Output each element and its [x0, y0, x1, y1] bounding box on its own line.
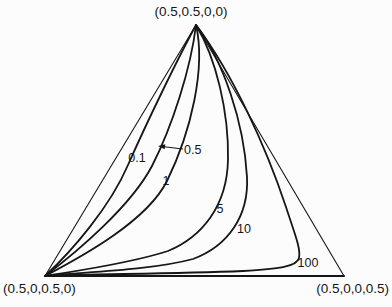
- triangle-left-edge: [45, 25, 196, 276]
- curve-label-10: 10: [237, 222, 251, 236]
- vertex-label-bottom-left: (0.5,0,0.5,0): [3, 281, 76, 296]
- contour-curve-100: [45, 25, 299, 276]
- curve-label-5: 5: [217, 202, 224, 216]
- curve-label-0.5: 0.5: [184, 143, 201, 157]
- curve-label-100: 100: [298, 256, 319, 270]
- curve-label-0.1: 0.1: [128, 151, 145, 165]
- vertex-label-bottom-right: (0.5,0,0,0.5): [316, 281, 389, 296]
- curve-label-1: 1: [163, 174, 170, 188]
- contour-curve-10: [45, 25, 247, 276]
- vertex-label-top: (0.5,0.5,0,0): [155, 4, 228, 19]
- simplex-contour-figure: 0.10.51510100(0.5,0.5,0,0)(0.5,0,0.5,0)(…: [0, 0, 392, 307]
- figure-canvas: 0.10.51510100(0.5,0.5,0,0)(0.5,0,0.5,0)(…: [0, 0, 392, 307]
